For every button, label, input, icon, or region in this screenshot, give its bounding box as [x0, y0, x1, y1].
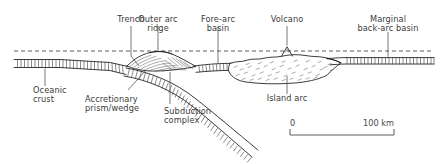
label-island-arc: Island arc	[267, 93, 308, 103]
fore-arc-basin	[193, 63, 233, 72]
label-oceanic-crust-line2: crust	[33, 94, 55, 104]
scale-bar-bracket	[290, 129, 394, 135]
oceanic-crust-hatching	[18, 60, 124, 74]
oceanic-crust-slab	[14, 60, 128, 75]
label-volcano: Volcano	[271, 14, 304, 24]
scale-bar-start-label: 0	[290, 118, 295, 128]
marginal-back-arc-basin-crust	[327, 58, 434, 65]
scale-bar-end-label: 100 km	[363, 118, 394, 128]
label-marginal-back-arc-line2: back-arc basin	[357, 23, 418, 33]
island-arc-massif	[228, 47, 341, 84]
label-subduction-complex-line2: complex	[164, 115, 199, 125]
scale-bar: 0 100 km	[290, 118, 394, 135]
label-accretionary-line2: prism/wedge	[85, 103, 139, 113]
label-outer-arc-ridge-line2: ridge	[147, 23, 169, 33]
accretionary-prism	[127, 51, 196, 71]
cross-section-canvas: Trench Outer arc ridge Fore-arc basin Vo…	[0, 0, 448, 164]
back-arc-crust-hatching	[347, 58, 434, 64]
label-fore-arc-basin-line2: basin	[207, 23, 229, 33]
subduction-zone-diagram: Trench Outer arc ridge Fore-arc basin Vo…	[0, 0, 448, 164]
